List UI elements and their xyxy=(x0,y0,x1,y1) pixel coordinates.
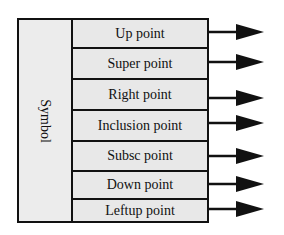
symbol-group-column: Symbol xyxy=(19,20,73,221)
point-row-up: Up point xyxy=(73,20,207,49)
point-row-leftup: Leftup point xyxy=(73,200,207,221)
point-row-down: Down point xyxy=(73,172,207,200)
right-arrow-icon xyxy=(209,23,265,41)
point-list: Up point Super point Right point Inclusi… xyxy=(73,20,207,221)
point-row-right: Right point xyxy=(73,80,207,111)
point-label: Inclusion point xyxy=(98,118,182,134)
point-label: Right point xyxy=(108,87,171,103)
point-row-subsc: Subsc point xyxy=(73,142,207,172)
point-row-inclusion: Inclusion point xyxy=(73,111,207,142)
point-label: Subsc point xyxy=(107,148,173,164)
right-arrow-icon xyxy=(209,89,265,107)
right-arrow-icon xyxy=(209,147,265,165)
right-arrow-icon xyxy=(209,175,265,193)
symbol-diagram-box: Symbol Up point Super point Right point … xyxy=(17,18,209,223)
point-row-super: Super point xyxy=(73,49,207,80)
point-label: Up point xyxy=(115,26,164,42)
right-arrow-icon xyxy=(209,114,265,132)
point-label: Super point xyxy=(108,56,173,72)
point-label: Down point xyxy=(107,177,174,193)
right-arrow-icon xyxy=(209,200,265,218)
point-label: Leftup point xyxy=(105,203,175,219)
right-arrow-icon xyxy=(209,53,265,71)
symbol-group-label: Symbol xyxy=(37,99,53,143)
